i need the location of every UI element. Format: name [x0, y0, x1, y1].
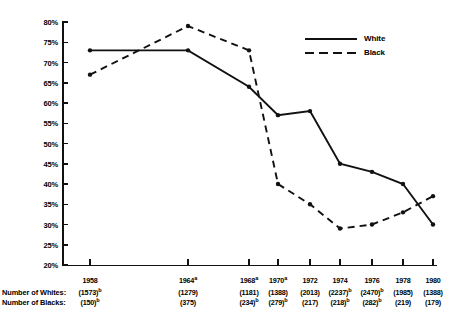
data-point-black [276, 182, 280, 186]
plot-lines [0, 0, 465, 315]
data-point-white [370, 170, 374, 174]
data-point-black [401, 210, 405, 214]
data-point-black [247, 48, 251, 52]
data-point-white [247, 85, 251, 89]
legend-label-black: Black [364, 48, 385, 57]
legend-dash-segment [333, 52, 342, 54]
data-point-black [370, 222, 374, 226]
legend-dash-segment [305, 52, 314, 54]
data-point-white [401, 182, 405, 186]
data-point-black [186, 24, 190, 28]
legend-dash-segment [347, 52, 356, 54]
data-point-white [338, 162, 342, 166]
data-point-white [186, 48, 190, 52]
data-point-black [431, 194, 435, 198]
chart-container: 80%75%70%65%60%55%50%45%40%35%30%25%20% … [0, 0, 465, 315]
data-point-white [431, 222, 435, 226]
legend-swatch-white [305, 38, 357, 40]
series-line-white [90, 50, 433, 224]
legend-label-white: White [364, 34, 385, 43]
data-point-white [88, 48, 92, 52]
legend-dash-segment [319, 52, 328, 54]
data-point-black [308, 202, 312, 206]
data-point-white [308, 109, 312, 113]
data-point-black [88, 72, 92, 76]
data-point-black [338, 226, 342, 230]
data-point-white [276, 113, 280, 117]
